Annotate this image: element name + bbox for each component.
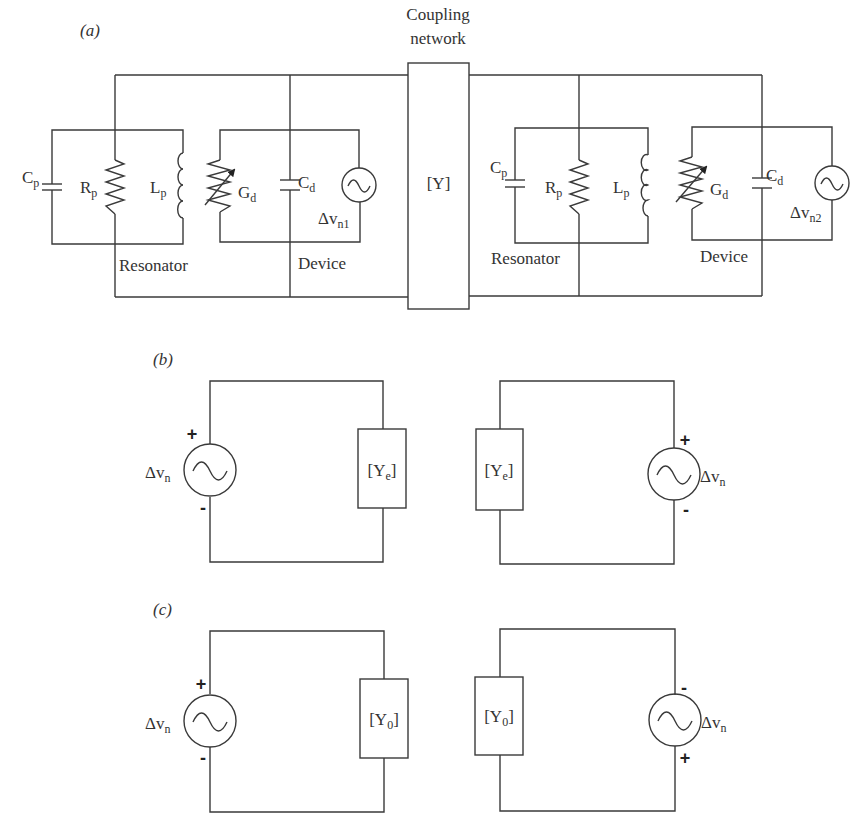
resistor-label: Rp bbox=[545, 178, 562, 200]
panel-a-label: (a) bbox=[80, 21, 100, 40]
noise-source-label: Δvn bbox=[701, 713, 726, 735]
panel-c: (c) [Y0] + - Δvn [Y0] - + bbox=[145, 600, 726, 812]
positive-terminal-sign: + bbox=[680, 430, 691, 450]
variable-resistor-icon bbox=[680, 157, 702, 209]
admittance-label: [Ye] bbox=[485, 461, 514, 483]
panel-b-label: (b) bbox=[153, 350, 173, 369]
capacitor-label: Cp bbox=[490, 158, 507, 180]
capacitor-icon bbox=[280, 180, 300, 190]
noise-source-label: Δvn bbox=[700, 467, 725, 489]
negative-terminal-sign: - bbox=[683, 500, 689, 520]
conductance-label: Gd bbox=[238, 183, 256, 205]
admittance-label: [Ye] bbox=[368, 461, 397, 483]
inductor-icon bbox=[178, 153, 183, 218]
panel-a: (a) Coupling network [Y] bbox=[22, 5, 849, 309]
noise-source-label: Δvn2 bbox=[790, 203, 821, 225]
ac-source-icon bbox=[815, 166, 849, 200]
inductor-icon bbox=[641, 155, 648, 217]
resistor-icon bbox=[570, 160, 588, 214]
ac-source-icon bbox=[184, 444, 236, 496]
capacitor-icon bbox=[42, 184, 62, 190]
left-resonator: Cp Rp Lp Resonator bbox=[22, 130, 188, 275]
capacitor-label: Cd bbox=[298, 173, 315, 195]
negative-terminal-sign: - bbox=[200, 498, 206, 518]
capacitor-label: Cp bbox=[22, 168, 39, 190]
device-label: Device bbox=[700, 247, 748, 266]
noise-source-label: Δvn bbox=[145, 714, 170, 736]
inductor-label: Lp bbox=[613, 178, 629, 200]
ac-source-icon bbox=[648, 448, 700, 500]
noise-source-label: Δvn bbox=[145, 463, 170, 485]
noise-source-label: Δvn1 bbox=[318, 209, 349, 231]
variable-resistor-icon bbox=[208, 160, 230, 212]
admittance-label: [Y0] bbox=[369, 710, 399, 732]
capacitor-icon bbox=[505, 180, 525, 187]
coupling-network-block: [Y] bbox=[408, 63, 469, 309]
right-resonator: Cp Rp Lp Resonator bbox=[490, 128, 648, 268]
positive-terminal-sign: + bbox=[196, 674, 207, 694]
resonator-label: Resonator bbox=[119, 256, 188, 275]
panel-b-left-circuit: [Ye] + - Δvn bbox=[145, 381, 406, 562]
positive-terminal-sign: + bbox=[680, 748, 691, 768]
ac-source-icon bbox=[649, 694, 701, 746]
panel-c-label: (c) bbox=[153, 600, 172, 619]
capacitor-label: Cd bbox=[766, 166, 783, 188]
negative-terminal-sign: - bbox=[681, 678, 687, 698]
panel-c-right-circuit: [Y0] - + Δvn bbox=[475, 629, 726, 811]
device-label: Device bbox=[298, 254, 346, 273]
positive-terminal-sign: + bbox=[187, 424, 198, 444]
coupling-network-title-line1: Coupling bbox=[406, 5, 470, 24]
panel-b-right-circuit: [Ye] + - Δvn bbox=[476, 381, 725, 564]
resonator-label: Resonator bbox=[491, 249, 560, 268]
ac-source-icon bbox=[342, 168, 376, 202]
ac-source-icon bbox=[184, 695, 236, 747]
negative-terminal-sign: - bbox=[200, 748, 206, 768]
coupling-matrix-label: [Y] bbox=[427, 174, 451, 193]
resistor-icon bbox=[106, 160, 124, 214]
conductance-label: Gd bbox=[710, 180, 728, 202]
coupling-network-title-line2: network bbox=[410, 29, 466, 48]
resistor-label: Rp bbox=[80, 178, 97, 200]
admittance-label: [Y0] bbox=[484, 707, 514, 729]
circuit-diagram: (a) Coupling network [Y] bbox=[0, 0, 867, 829]
panel-c-left-circuit: [Y0] + - Δvn bbox=[145, 631, 408, 812]
panel-b: (b) [Ye] + - Δvn [Ye] + - bbox=[145, 350, 725, 564]
inductor-label: Lp bbox=[150, 178, 166, 200]
